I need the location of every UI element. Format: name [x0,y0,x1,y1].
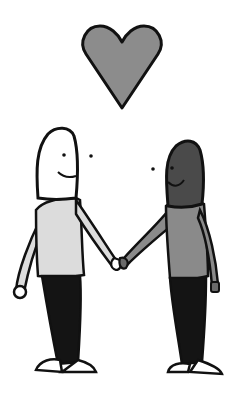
right-shoe-1 [168,363,190,372]
heart-icon [83,26,161,108]
left-person [14,128,116,372]
right-pants [170,278,206,364]
right-head [166,141,203,207]
dot-right [151,167,155,171]
right-eye [170,166,174,170]
left-eye [62,153,66,157]
right-hand-right [211,282,219,292]
left-pants [42,276,81,364]
left-head [37,128,77,199]
couple-illustration [0,0,240,403]
joined-hands [111,258,127,270]
left-shoe-1 [36,359,62,372]
left-hand-left [14,286,26,298]
dot-left [89,154,93,158]
right-person [124,141,222,374]
